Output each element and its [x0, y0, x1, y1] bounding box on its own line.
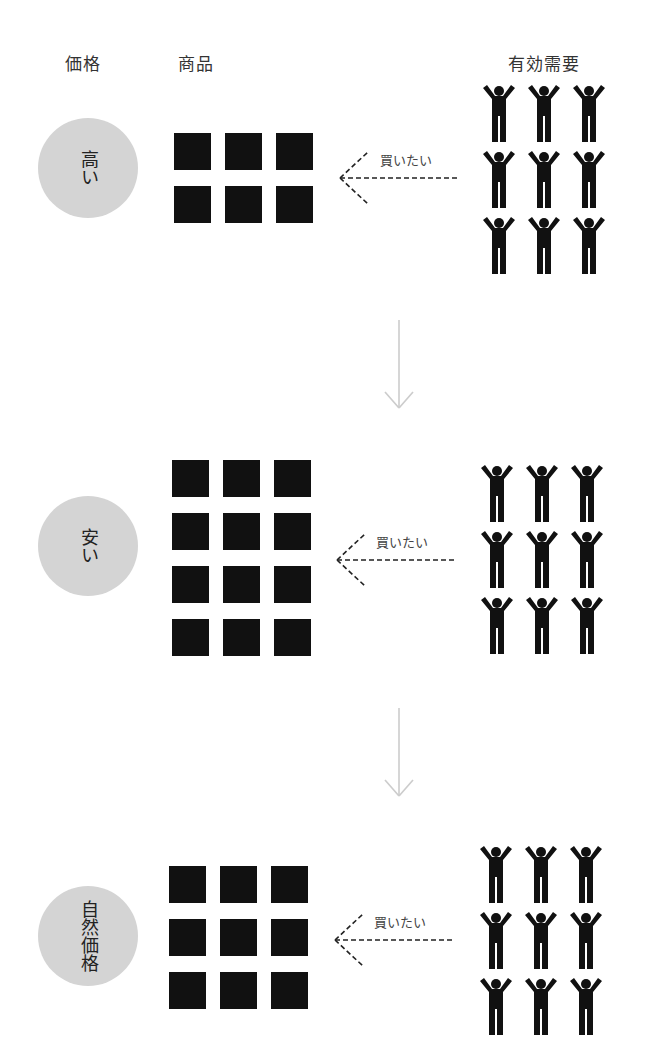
- person-icon: [526, 84, 562, 142]
- goods-square: [223, 513, 260, 550]
- goods-square: [174, 133, 211, 170]
- buy-label: 買いたい: [374, 912, 426, 931]
- person-icon: [523, 977, 559, 1035]
- person-icon: [481, 150, 517, 208]
- person-icon: [478, 977, 514, 1035]
- down-arrow-icon: [384, 708, 414, 798]
- price-circle: 安い: [38, 496, 138, 596]
- goods-square: [271, 919, 308, 956]
- person-icon: [569, 530, 605, 588]
- goods-square: [220, 866, 257, 903]
- price-circle: 高い: [38, 118, 138, 218]
- header-effective-demand: 有効需要: [508, 50, 580, 75]
- person-icon: [569, 596, 605, 654]
- person-icon: [479, 530, 515, 588]
- demand-people-grid: [479, 464, 605, 654]
- goods-square: [276, 133, 313, 170]
- goods-grid: [174, 133, 313, 223]
- goods-square: [225, 133, 262, 170]
- person-icon: [481, 84, 517, 142]
- goods-square: [274, 566, 311, 603]
- down-arrow-icon: [384, 320, 414, 410]
- person-icon: [571, 216, 607, 274]
- price-label: 高い: [79, 150, 97, 186]
- demand-people-grid: [481, 84, 607, 274]
- goods-square: [169, 919, 206, 956]
- goods-square: [271, 972, 308, 1009]
- goods-square: [172, 619, 209, 656]
- person-icon: [478, 845, 514, 903]
- goods-square: [220, 972, 257, 1009]
- goods-square: [223, 460, 260, 497]
- person-icon: [571, 84, 607, 142]
- goods-square: [225, 186, 262, 223]
- goods-square: [274, 460, 311, 497]
- person-icon: [568, 911, 604, 969]
- person-icon: [479, 464, 515, 522]
- goods-square: [169, 866, 206, 903]
- person-icon: [524, 530, 560, 588]
- person-icon: [523, 911, 559, 969]
- goods-square: [276, 186, 313, 223]
- person-icon: [524, 596, 560, 654]
- price-label: 安い: [79, 528, 97, 564]
- person-icon: [568, 977, 604, 1035]
- goods-square: [274, 513, 311, 550]
- goods-square: [172, 513, 209, 550]
- person-icon: [523, 845, 559, 903]
- person-icon: [526, 150, 562, 208]
- buy-label: 買いたい: [376, 532, 428, 551]
- buy-label: 買いたい: [380, 150, 432, 169]
- person-icon: [571, 150, 607, 208]
- goods-grid: [172, 460, 311, 656]
- goods-grid: [169, 866, 308, 1009]
- goods-square: [174, 186, 211, 223]
- person-icon: [526, 216, 562, 274]
- person-icon: [478, 911, 514, 969]
- goods-square: [271, 866, 308, 903]
- price-label: 自然価格: [79, 900, 97, 972]
- goods-square: [172, 566, 209, 603]
- goods-square: [223, 619, 260, 656]
- header-goods: 商品: [178, 50, 214, 75]
- goods-square: [172, 460, 209, 497]
- person-icon: [569, 464, 605, 522]
- person-icon: [568, 845, 604, 903]
- goods-square: [223, 566, 260, 603]
- person-icon: [481, 216, 517, 274]
- person-icon: [479, 596, 515, 654]
- goods-square: [274, 619, 311, 656]
- demand-people-grid: [478, 845, 604, 1035]
- goods-square: [220, 919, 257, 956]
- goods-square: [169, 972, 206, 1009]
- header-price: 価格: [65, 50, 101, 75]
- price-circle: 自然価格: [38, 886, 138, 986]
- person-icon: [524, 464, 560, 522]
